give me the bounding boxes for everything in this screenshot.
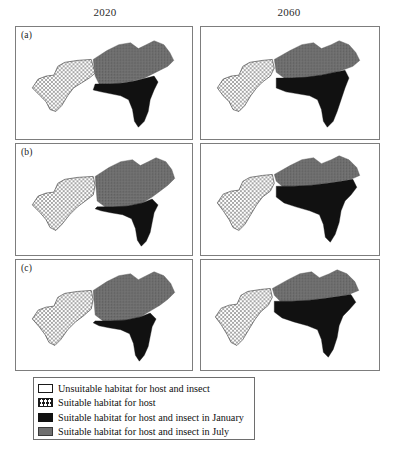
map-panel-b-2060[interactable] [200, 143, 380, 256]
map-panel-c-2060[interactable] [200, 259, 380, 371]
map-a-2060-canvas [201, 27, 379, 139]
region-host-only [217, 174, 274, 230]
region-january [93, 76, 158, 127]
panel-label-b: (b) [21, 147, 33, 157]
map-panel-c-2020[interactable]: (c) [15, 259, 193, 371]
region-january [276, 179, 357, 242]
map-panel-a-2060[interactable] [200, 26, 380, 140]
map-b-2060-canvas [201, 144, 379, 255]
map-b-2020-canvas [16, 144, 192, 255]
map-c-2020-canvas [16, 260, 192, 370]
january-swatch-icon [38, 413, 53, 422]
legend-label-july: Suitable habitat for host and insect in … [58, 426, 229, 437]
column-header-2060: 2060 [259, 6, 319, 18]
region-july [93, 41, 174, 84]
region-host-only [32, 59, 95, 111]
legend-item-host: Suitable habitat for host [38, 396, 250, 410]
host-swatch-icon [38, 398, 53, 407]
map-c-2060-canvas [201, 260, 379, 370]
region-july [274, 41, 359, 78]
july-swatch-icon [38, 427, 53, 436]
legend-label-unsuitable: Unsuitable habitat for host and insect [58, 383, 210, 394]
map-panel-b-2020[interactable]: (b) [15, 143, 193, 256]
region-host-only [32, 290, 93, 345]
region-host-only [32, 176, 95, 230]
legend-item-january: Suitable habitat for host and insect in … [38, 410, 250, 424]
unsuitable-swatch-icon [38, 384, 53, 393]
region-july [95, 158, 175, 207]
map-panel-a-2020[interactable]: (a) [15, 26, 193, 140]
legend-item-unsuitable: Unsuitable habitat for host and insect [38, 381, 250, 395]
region-january [276, 70, 349, 127]
legend-label-host: Suitable habitat for host [58, 397, 156, 408]
panel-label-a: (a) [21, 30, 32, 40]
region-july [93, 272, 175, 321]
column-header-2020: 2020 [75, 6, 135, 18]
region-host-only [215, 288, 272, 345]
legend-label-january: Suitable habitat for host and insect in … [58, 412, 244, 423]
region-host-only [217, 59, 274, 111]
legend: Unsuitable habitat for host and insect S… [33, 377, 255, 440]
region-january [274, 294, 356, 357]
map-a-2020-canvas [16, 27, 192, 139]
legend-item-july: Suitable habitat for host and insect in … [38, 425, 250, 439]
panel-label-c: (c) [21, 263, 32, 273]
